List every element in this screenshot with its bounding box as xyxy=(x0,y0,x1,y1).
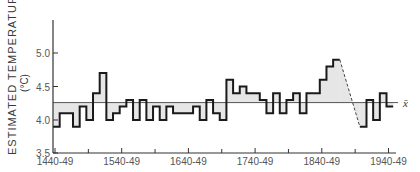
y-tick-label: 4.0 xyxy=(36,115,50,126)
x-tick-label: 1940-49 xyxy=(370,156,407,167)
step-series-0 xyxy=(53,60,340,127)
shaded-deviation-area xyxy=(53,60,393,127)
x-tick-label: 1540-49 xyxy=(103,156,140,167)
x-tick-label: 1640-49 xyxy=(170,156,207,167)
x-tick-label: 1440-49 xyxy=(37,156,74,167)
x-tick-label: 1840-49 xyxy=(303,156,340,167)
shade-segment xyxy=(360,93,393,127)
mean-label: x̄ xyxy=(402,97,408,109)
axes: 3.54.04.55.01440-491540-491640-491740-49… xyxy=(36,20,407,167)
y-tick-label: 5.0 xyxy=(36,48,50,59)
x-tick-label: 1740-49 xyxy=(237,156,274,167)
y-tick-label: 4.5 xyxy=(36,82,50,93)
temperature-step-chart: x̄ 3.54.04.55.01440-491540-491640-491740… xyxy=(0,0,420,172)
